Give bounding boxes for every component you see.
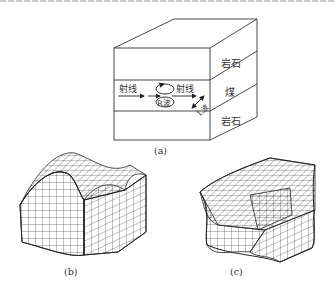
orbit-ellipse	[156, 84, 174, 94]
caption-a: (a)	[154, 145, 167, 156]
layer-label-rock-top: 岩石	[221, 55, 241, 70]
caption-c: (c)	[230, 266, 243, 277]
panel-c-mesh	[200, 158, 315, 262]
ray-left-label: 射线	[119, 82, 137, 95]
layer-label-coal: 煤	[225, 84, 235, 99]
ray-right-label: 射线	[176, 82, 194, 95]
caption-b: (b)	[64, 266, 78, 277]
figure-canvas	[0, 0, 336, 292]
layer-label-rock-bottom: 岩石	[221, 113, 241, 128]
panel-b-mesh	[20, 153, 146, 256]
rayleigh-wave-label: R波	[157, 97, 170, 108]
